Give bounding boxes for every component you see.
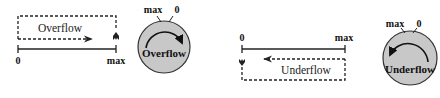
overflow-axis-start-label: 0 xyxy=(16,55,21,66)
underflow-box-label: Underflow xyxy=(281,64,332,76)
underflow-axis-end-label: max xyxy=(335,32,353,43)
overflow-dial-max-label: max xyxy=(144,4,162,15)
underflow-dial-max-label: max xyxy=(386,18,404,29)
underflow-dial-label: Underflow xyxy=(385,63,435,75)
overflow-dial-label: Overflow xyxy=(142,47,186,59)
underflow-dial-circle xyxy=(383,31,437,85)
overflow-dial-tick-zero xyxy=(169,16,173,22)
underflow-wrap-icon xyxy=(239,59,245,66)
overflow-box-label: Overflow xyxy=(38,22,83,34)
underflow-axis-start-label: 0 xyxy=(240,32,245,43)
underflow-dial-zero-label: 0 xyxy=(417,18,422,29)
overflow-dial-zero-label: 0 xyxy=(175,4,180,15)
overflow-underflow-diagram: Overflow 0 max max 0 Overflow 0 max Unde… xyxy=(0,0,440,98)
overflow-linear-panel: Overflow 0 max xyxy=(16,16,126,66)
overflow-wrap-icon xyxy=(113,32,119,40)
overflow-axis-end-label: max xyxy=(107,55,125,66)
underflow-linear-panel: 0 max Underflow xyxy=(239,32,353,80)
underflow-dial: max 0 Underflow xyxy=(383,18,437,85)
overflow-dial: max 0 Overflow xyxy=(138,4,190,73)
